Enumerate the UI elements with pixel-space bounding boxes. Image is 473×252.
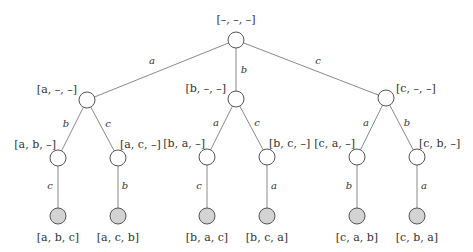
label-bc: [b, c, –] <box>269 137 310 150</box>
label-cb: [c, b, –] <box>419 137 460 150</box>
node-root <box>228 32 244 48</box>
label-cab: [c, a, b] <box>336 231 378 244</box>
node-cb <box>409 149 425 165</box>
label-ac: [a, c, –] <box>120 138 161 151</box>
edge-label-c-cb: b <box>404 117 410 128</box>
label-ca: [c, a, –] <box>314 137 355 150</box>
edge-label-b-bc: c <box>254 117 260 128</box>
edges <box>58 40 417 216</box>
label-ab: [a, b, –] <box>14 138 56 151</box>
node-bc <box>259 149 275 165</box>
edge-label-a-ac: c <box>105 118 111 129</box>
label-bca: [b, c, a] <box>246 231 288 244</box>
node-c <box>378 90 394 106</box>
edge-b-bc <box>236 99 267 157</box>
leaf-acb <box>110 208 126 224</box>
edge-a-ab <box>58 100 87 158</box>
edge-label-b-ba: a <box>213 117 219 128</box>
edge-root-c <box>236 40 386 98</box>
leaf-cab <box>349 208 365 224</box>
leaf-abc <box>50 208 66 224</box>
label-b: [b, –, –] <box>185 82 226 95</box>
edge-label-ca-cab: b <box>346 180 352 191</box>
label-a: [a, –, –] <box>37 83 77 96</box>
edge-label-cb-cba: a <box>421 180 427 191</box>
edge-c-ca <box>357 98 386 157</box>
edge-label-root-a: a <box>149 55 155 66</box>
edge-label-ab-abc: c <box>47 180 53 191</box>
edge-label-bc-bca: a <box>271 180 277 191</box>
node-ac <box>110 150 126 166</box>
permutation-tree: a b c b c a c a b c b c a b a [–, –, – <box>0 0 473 252</box>
label-abc: [a, b, c] <box>37 231 79 244</box>
edge-label-root-c: c <box>315 55 321 66</box>
node-ab <box>50 150 66 166</box>
node-b <box>228 91 244 107</box>
edge-label-c-ca: a <box>363 117 369 128</box>
edge-a-ac <box>87 100 118 158</box>
label-c: [c, –, –] <box>396 82 436 95</box>
leaf-cba <box>409 208 425 224</box>
node-a <box>79 92 95 108</box>
edge-c-cb <box>386 98 417 157</box>
label-bac: [b, a, c] <box>186 231 228 244</box>
edge-label-a-ab: b <box>63 118 69 129</box>
leaf-bac <box>199 208 215 224</box>
label-acb: [a, c, b] <box>97 231 139 244</box>
edge-labels: a b c b c a c a b c b c a b a <box>47 55 427 191</box>
node-ba <box>199 149 215 165</box>
leaf-bca <box>259 208 275 224</box>
edge-label-root-b: b <box>241 64 247 75</box>
edge-label-ba-bac: c <box>196 180 202 191</box>
label-root: [–, –, –] <box>216 13 255 26</box>
edge-b-ba <box>207 99 236 157</box>
node-ca <box>349 149 365 165</box>
edge-label-ac-acb: b <box>122 180 128 191</box>
label-ba: [b, a, –] <box>163 137 205 150</box>
label-cba: [c, b, a] <box>396 231 438 244</box>
